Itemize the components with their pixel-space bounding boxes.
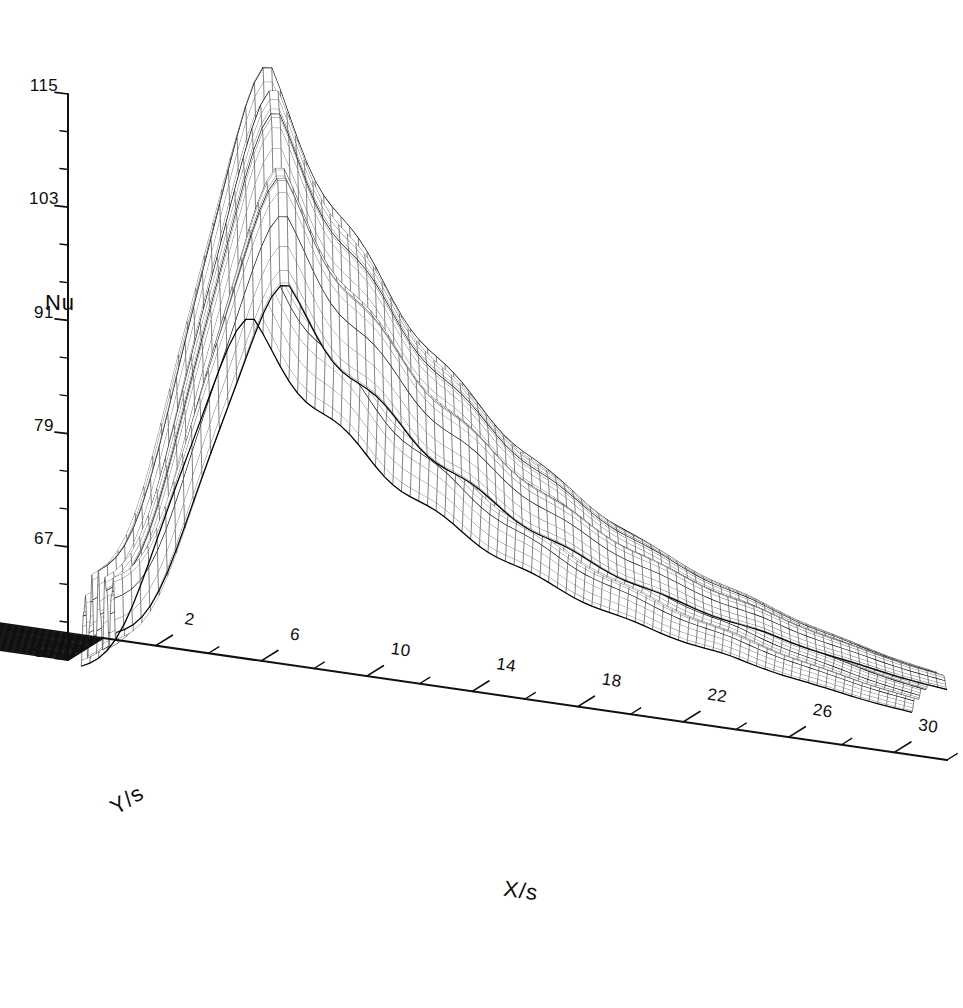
x-tick-major [683, 711, 700, 721]
z-tick-minor [60, 131, 68, 132]
z-tick-label: 79 [34, 416, 54, 435]
surface-mesh [81, 67, 947, 712]
x-tick-label: 2 [183, 609, 196, 629]
x-tick-minor [525, 693, 535, 699]
z-tick-minor [60, 621, 68, 622]
z-tick-major [55, 319, 68, 321]
x-tick-minor [420, 677, 430, 683]
x-tick-major [156, 635, 173, 645]
x-tick-minor [314, 662, 324, 668]
x-axis-title: X/s [502, 876, 540, 906]
x-tick-minor [209, 647, 219, 653]
x-tick-major [261, 650, 278, 660]
x-tick-major [472, 681, 489, 691]
x-tick-major [789, 727, 806, 737]
x-tick-label: 22 [706, 685, 728, 707]
x-tick-major [578, 696, 595, 706]
z-tick-minor [60, 244, 68, 245]
x-tick-major [367, 666, 384, 676]
z-tick-minor [60, 357, 68, 358]
x-tick-minor [736, 723, 746, 729]
z-tick-minor [60, 395, 68, 396]
x-tick-minor [947, 754, 957, 760]
z-tick-minor [60, 282, 68, 283]
x-tick-label: 14 [495, 654, 517, 676]
figure-root: 26101418222630-13-11-9-7-5-3-11357911135… [0, 0, 963, 1008]
y-axis-title: Y/s [106, 780, 149, 820]
x-tick-label: 30 [917, 715, 939, 737]
z-tick-minor [60, 584, 68, 585]
z-tick-major [55, 545, 68, 547]
z-tick-major [55, 432, 68, 434]
x-tick-label: 10 [390, 639, 412, 661]
z-tick-label: 55 [34, 642, 54, 661]
x-tick-minor [631, 708, 641, 714]
z-tick-label: 67 [34, 529, 54, 548]
z-tick-label: 115 [30, 76, 59, 95]
x-tick-major [894, 742, 911, 752]
surface-plot-canvas: 26101418222630-13-11-9-7-5-3-11357911135… [0, 0, 963, 1008]
z-tick-label: 103 [29, 189, 59, 208]
x-tick-minor [842, 738, 852, 744]
z-tick-minor [60, 470, 68, 471]
x-tick-label: 18 [601, 669, 623, 691]
x-tick-label: 26 [812, 700, 834, 722]
z-tick-minor [60, 169, 68, 170]
z-axis-title: Nu [45, 290, 75, 315]
z-tick-minor [60, 508, 68, 509]
x-tick-label: 6 [289, 624, 302, 644]
